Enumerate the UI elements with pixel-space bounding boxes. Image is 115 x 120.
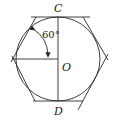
label-o: O <box>62 61 71 74</box>
label-angle: 60° <box>42 29 60 40</box>
label-d: D <box>53 105 63 118</box>
label-c: C <box>54 2 63 15</box>
hexagon-circle-diagram: C D O 60° <box>0 0 115 120</box>
